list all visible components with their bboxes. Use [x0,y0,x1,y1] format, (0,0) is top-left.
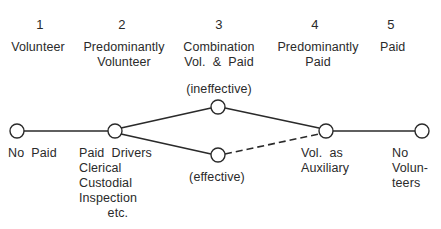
continuum-diagram [0,0,441,229]
node-a-caption: No Paid [8,146,57,161]
node-f [415,124,429,138]
edge-b-c [121,108,211,128]
stage-1-label: Volunteer [11,40,65,55]
stage-2-label: Predominantly Volunteer [83,40,164,70]
stage-5-label: Paid [380,40,405,55]
branch-upper-label: (ineffective) [186,82,252,97]
node-c [211,100,225,114]
stage-4-label: Predominantly Paid [277,40,358,70]
node-b [108,124,122,138]
node-a [10,124,24,138]
node-d [211,148,225,162]
node-f-caption: No Volun- teers [392,146,428,191]
edge-c-e [225,108,319,128]
stage-2-number: 2 [118,17,125,32]
stage-3-label: Combination Vol. & Paid [183,40,254,70]
branch-lower-label: (effective) [189,170,245,185]
stage-5-number: 5 [387,17,394,32]
stage-3-number: 3 [215,17,222,32]
node-e-caption: Vol. as Auxiliary [301,146,349,176]
stage-4-number: 4 [311,17,318,32]
node-e [319,124,333,138]
stage-1-number: 1 [36,17,43,32]
node-b-caption: Paid Drivers Clerical Custodial Inspecti… [79,146,152,221]
